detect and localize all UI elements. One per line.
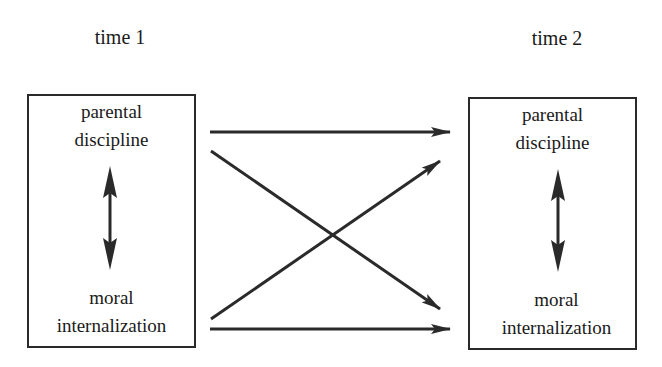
arrows-layer [0,0,662,367]
time1-bidirectional-arrow [103,166,117,270]
arrow-mi1-to-pd2 [211,161,440,319]
arrow-pd1-to-mi2 [211,151,440,309]
time2-bidirectional-arrow [551,169,565,272]
